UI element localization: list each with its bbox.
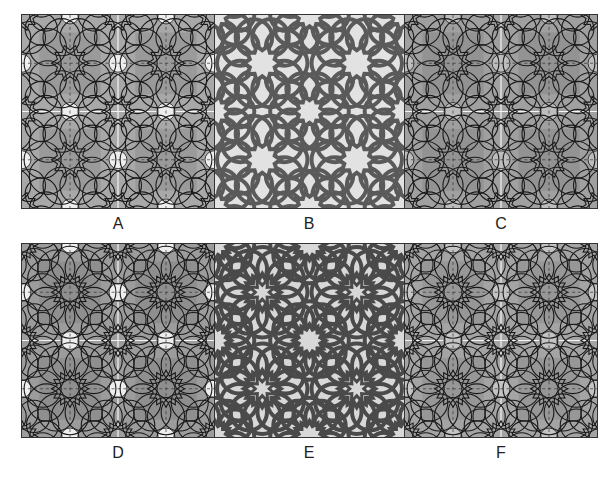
panel-label-d: D (98, 444, 138, 462)
pattern-panel-e (214, 243, 405, 438)
pattern-panel-c (404, 14, 598, 209)
pattern-graphic (22, 15, 214, 208)
pattern-graphic (215, 244, 404, 437)
panel-label-c: C (481, 215, 521, 233)
pattern-graphic (22, 244, 214, 437)
panel-label-e: E (289, 444, 329, 462)
pattern-graphic (405, 15, 597, 208)
pattern-graphic (405, 244, 597, 437)
panel-label-f: F (481, 444, 521, 462)
pattern-graphic (215, 15, 404, 208)
pattern-panel-b (214, 14, 405, 209)
pattern-panel-f (404, 243, 598, 438)
pattern-panel-a (21, 14, 215, 209)
pattern-panel-d (21, 243, 215, 438)
panel-label-b: B (289, 215, 329, 233)
panel-label-a: A (98, 215, 138, 233)
